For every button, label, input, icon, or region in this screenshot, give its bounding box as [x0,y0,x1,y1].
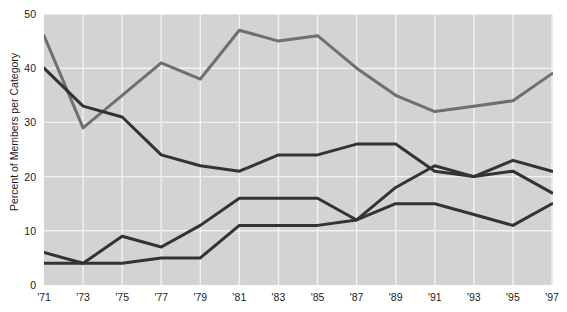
series-line-4 [44,160,552,263]
series-line-3 [44,198,552,263]
series-line-1 [44,30,552,128]
x-axis-tick-label: '93 [454,291,494,303]
x-axis-tick-label: '83 [258,291,298,303]
x-axis-tick-label: '73 [63,291,103,303]
x-axis-tick-label: '79 [180,291,220,303]
x-axis-tick-label: '91 [415,291,455,303]
x-axis-tick-label: '85 [298,291,338,303]
x-axis-tick-label: '77 [141,291,181,303]
y-axis-tick-label: 50 [2,9,36,19]
y-axis-tick-label: 40 [2,63,36,73]
y-axis-tick-label: 30 [2,117,36,127]
y-axis-label: Percent of Members per Category [8,32,20,232]
series-line-2 [44,68,552,193]
x-axis-tick-label: '81 [219,291,259,303]
x-axis-tick-label: '75 [102,291,142,303]
data-series-group [44,14,553,285]
line-chart: Percent of Members per Category 01020304… [0,0,567,312]
x-axis-tick-label: '97 [532,291,567,303]
y-axis-tick-label: 20 [2,172,36,182]
x-axis-tick-label: '71 [24,291,64,303]
x-axis-tick-label: '87 [337,291,377,303]
x-axis-tick-label: '89 [376,291,416,303]
y-axis-tick-label: 0 [2,280,36,290]
x-axis-tick-label: '95 [493,291,533,303]
y-axis-tick-label: 10 [2,226,36,236]
chart-title-remnant [0,0,567,3]
plot-area [44,14,553,285]
